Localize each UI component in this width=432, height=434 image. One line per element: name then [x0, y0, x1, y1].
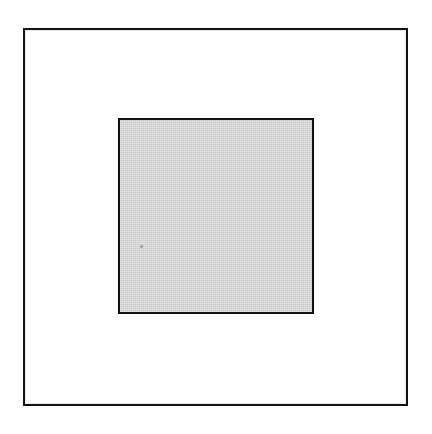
inner-square-label [120, 120, 121, 121]
figure-canvas [0, 0, 432, 434]
outer-frame-label [25, 30, 26, 31]
inner-square-texture [120, 120, 312, 312]
figure-caption [0, 0, 1, 1]
inner-filled-square [118, 118, 314, 314]
